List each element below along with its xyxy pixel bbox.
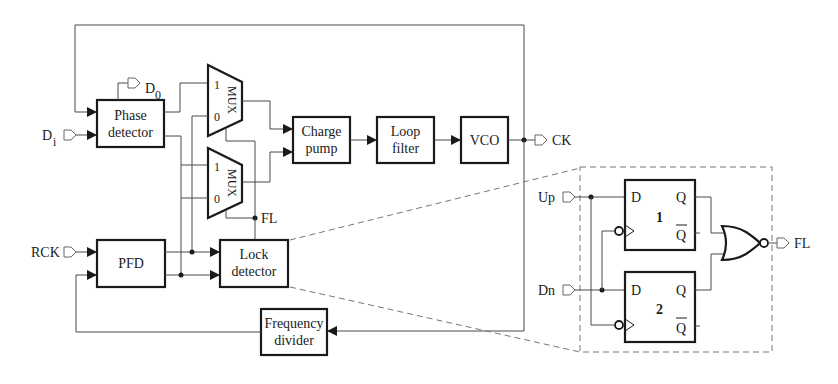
arrow-icon: [451, 135, 461, 145]
svg-text:divider: divider: [274, 333, 314, 348]
svg-text:D: D: [631, 190, 641, 205]
svg-text:Frequency: Frequency: [264, 316, 323, 331]
svg-text:1: 1: [214, 160, 220, 174]
svg-text:VCO: VCO: [470, 133, 500, 148]
svg-text:detector: detector: [231, 264, 276, 279]
svg-text:detector: detector: [108, 125, 153, 140]
fl-output-port-icon: [777, 238, 789, 248]
svg-text:Q: Q: [676, 190, 686, 205]
zoom-guide-line: [290, 287, 580, 352]
svg-text:1: 1: [214, 78, 220, 92]
junction-dot: [179, 273, 184, 278]
rck-label: RCK: [31, 245, 60, 260]
d0-sub: 0: [155, 88, 161, 102]
di-sub: i: [53, 135, 57, 149]
svg-text:Phase: Phase: [114, 108, 147, 123]
di-label: D: [42, 128, 52, 143]
up-input-port-icon: [563, 192, 575, 202]
arrow-icon: [87, 247, 97, 257]
ck-output-port-icon: [535, 135, 547, 145]
svg-text:MUX: MUX: [225, 86, 239, 114]
svg-text:Charge: Charge: [301, 124, 341, 139]
svg-text:Q: Q: [676, 283, 686, 298]
svg-text:0: 0: [214, 110, 220, 124]
inverter-bubble-icon: [615, 321, 623, 329]
arrow-icon: [87, 270, 97, 280]
rck-input-port-icon: [64, 247, 76, 257]
svg-text:Loop: Loop: [391, 124, 421, 139]
d0-output-port-icon: [128, 78, 140, 88]
nor-gate-icon: [722, 226, 760, 260]
arrow-icon: [367, 135, 377, 145]
svg-text:0: 0: [214, 192, 220, 206]
svg-text:Q: Q: [676, 228, 686, 243]
dn-input-port-icon: [563, 285, 575, 295]
svg-text:Q: Q: [676, 321, 686, 336]
arrow-icon: [210, 270, 220, 280]
zoom-guide-line: [290, 168, 580, 240]
fl-node-label: FL: [261, 211, 277, 226]
pll-block-diagram: D i Phase detector D 0 1 0 MUX 1 0 MUX F…: [0, 0, 838, 384]
svg-text:1: 1: [656, 210, 663, 225]
svg-text:D: D: [631, 283, 641, 298]
arrow-icon: [210, 247, 220, 257]
arrow-icon: [87, 130, 97, 140]
dn-label: Dn: [538, 283, 555, 298]
up-label: Up: [538, 190, 555, 205]
ck-label: CK: [552, 133, 571, 148]
inverter-bubble-icon: [760, 239, 768, 247]
arrow-icon: [327, 326, 337, 336]
arrow-icon: [87, 107, 97, 117]
di-input-port-icon: [64, 130, 76, 140]
junction-dot: [190, 250, 195, 255]
inverter-bubble-icon: [615, 227, 623, 235]
svg-text:filter: filter: [392, 141, 420, 156]
svg-text:MUX: MUX: [225, 169, 239, 197]
arrow-icon: [283, 147, 293, 157]
svg-text:Lock: Lock: [240, 247, 269, 262]
fl-output-label: FL: [794, 236, 810, 251]
svg-text:PFD: PFD: [118, 256, 144, 271]
d0-label: D: [145, 81, 155, 96]
arrow-icon: [283, 124, 293, 134]
svg-text:pump: pump: [306, 141, 338, 156]
svg-text:2: 2: [656, 302, 663, 317]
